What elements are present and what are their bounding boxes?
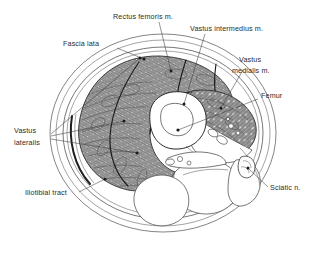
leader-dot-vastus-lateralis-2 — [123, 120, 126, 123]
leader-dot-iliotibial-tract — [104, 178, 107, 181]
leader-dot-sciatic-nerve — [247, 167, 250, 170]
leader-dot-vastus-lateralis-3 — [136, 152, 139, 155]
label-vastus-medialis-line2: medialis m. — [232, 66, 270, 75]
sciatic-nerve-group — [238, 156, 255, 178]
label-iliotibial-tract: Iliotibial tract — [25, 188, 67, 197]
leader-dot-vastus-lateralis-1 — [139, 57, 142, 60]
saphenous-nerve — [229, 124, 234, 129]
small-vessel-b — [226, 117, 229, 120]
label-vastus-intermedius: Vastus intermedius m. — [190, 24, 263, 33]
label-vastus-lateralis-line2: lateralis — [14, 138, 40, 147]
semitendinosus — [134, 175, 189, 226]
leader-dot-fascia-lata — [143, 58, 146, 61]
leader-dot-femur — [176, 128, 179, 131]
label-femur: Femur — [261, 91, 283, 100]
label-rectus-femoris: Rectus femoris m. — [113, 12, 173, 21]
label-sciatic-nerve: Sciatic n. — [270, 183, 300, 192]
perforating-artery — [177, 156, 182, 161]
small-vessel-a — [236, 131, 240, 135]
leader-dot-vastus-medialis — [220, 107, 223, 110]
label-vastus-lateralis-line1: Vastus — [14, 126, 36, 135]
label-vastus-medialis-line1: Vastus — [239, 55, 261, 64]
thigh-cross-section-svg: Rectus femoris m. Vastus intermedius m. … — [0, 0, 321, 254]
leader-dot-vastus-intermedius — [183, 103, 186, 106]
anatomy-figure: Rectus femoris m. Vastus intermedius m. … — [0, 0, 321, 254]
posterior-small-vessel — [187, 161, 191, 165]
label-fascia-lata: Fascia lata — [63, 39, 99, 48]
sciatic-nerve-body — [238, 156, 255, 178]
leader-dot-rectus-femoris — [170, 70, 173, 73]
